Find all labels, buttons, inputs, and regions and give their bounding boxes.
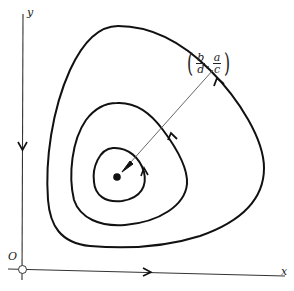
y-axis-label: y (27, 6, 33, 19)
phase-plane-svg (0, 0, 294, 291)
origin-marker (19, 266, 27, 274)
y-axis (22, 14, 23, 280)
origin-label: O (8, 250, 17, 263)
x-coordinate-fraction: b d (196, 52, 205, 75)
coordinate-separator: , (206, 57, 210, 70)
equilibrium-point (113, 173, 121, 181)
equilibrium-pointer-line (122, 70, 213, 172)
equilibrium-pointer-arrowhead-icon (122, 161, 133, 172)
phase-portrait: y x O ( b d , a c ) (0, 0, 294, 291)
x-numerator: b (196, 52, 205, 64)
x-axis-label: x (281, 265, 287, 278)
y-denominator: c (214, 64, 220, 75)
y-coordinate-fraction: a c (213, 52, 222, 75)
equilibrium-label: ( b d , a c ) (185, 50, 232, 76)
middle-orbit-arrow-icon (168, 133, 177, 140)
label-open-paren: ( (187, 50, 193, 76)
x-denominator: d (197, 64, 204, 75)
y-numerator: a (213, 52, 222, 64)
label-close-paren: ) (224, 50, 230, 76)
